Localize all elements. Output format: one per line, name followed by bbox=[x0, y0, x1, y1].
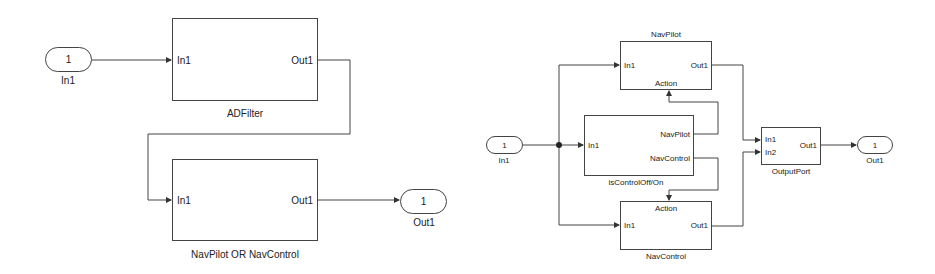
switch-in-port: In1 bbox=[588, 141, 599, 150]
merge-in1-port: In1 bbox=[765, 135, 776, 144]
navor-in-port: In1 bbox=[177, 195, 191, 206]
outport-out1[interactable]: 1 bbox=[400, 189, 447, 214]
merge-label: OutputPort bbox=[772, 167, 811, 176]
navpilot-label: NavPilot bbox=[651, 30, 681, 39]
navor-label: NavPilot OR NavControl bbox=[191, 249, 299, 260]
merge-in2-port: In2 bbox=[765, 148, 776, 157]
block-outputport-merge[interactable]: In1 In2 Out1 bbox=[761, 127, 821, 165]
navcontrol-action-port: Action bbox=[655, 204, 677, 213]
adfilter-label: ADFilter bbox=[227, 108, 263, 119]
r-outport-out1[interactable]: 1 bbox=[857, 136, 893, 154]
navcontrol-in-port: In1 bbox=[624, 221, 635, 230]
inport-number: 1 bbox=[66, 54, 72, 65]
navpilot-out-port: Out1 bbox=[691, 61, 708, 70]
branch-junction-dot bbox=[556, 142, 562, 148]
adfilter-out-port: Out1 bbox=[291, 55, 313, 66]
r-inport-label: In1 bbox=[498, 156, 509, 165]
navor-out-port: Out1 bbox=[291, 195, 313, 206]
merge-out-port: Out1 bbox=[800, 141, 817, 150]
inport-label: In1 bbox=[61, 75, 75, 86]
block-navpilot[interactable]: In1 Out1 Action bbox=[620, 41, 712, 90]
outport-label: Out1 bbox=[413, 217, 435, 228]
inport-in1[interactable]: 1 bbox=[45, 47, 92, 72]
navpilot-in-port: In1 bbox=[624, 61, 635, 70]
switch-label: isControlOff/On bbox=[609, 178, 664, 187]
block-iscontrol-switch[interactable]: In1 NavPilot NavControl bbox=[584, 115, 694, 176]
r-inport-in1[interactable]: 1 bbox=[486, 136, 523, 154]
block-adfilter[interactable]: In1 Out1 bbox=[172, 18, 318, 101]
block-navcontrol[interactable]: Action In1 Out1 bbox=[620, 201, 712, 250]
navcontrol-label: NavControl bbox=[646, 252, 686, 261]
switch-out-navpilot: NavPilot bbox=[660, 130, 690, 139]
navpilot-action-port: Action bbox=[655, 79, 677, 88]
switch-out-navcontrol: NavControl bbox=[650, 154, 690, 163]
outport-number: 1 bbox=[421, 196, 427, 207]
r-inport-number: 1 bbox=[502, 141, 506, 150]
r-outport-label: Out1 bbox=[866, 156, 883, 165]
adfilter-in-port: In1 bbox=[177, 55, 191, 66]
r-outport-number: 1 bbox=[873, 141, 877, 150]
block-navpilot-or-navcontrol[interactable]: In1 Out1 bbox=[172, 159, 318, 241]
navcontrol-out-port: Out1 bbox=[691, 221, 708, 230]
